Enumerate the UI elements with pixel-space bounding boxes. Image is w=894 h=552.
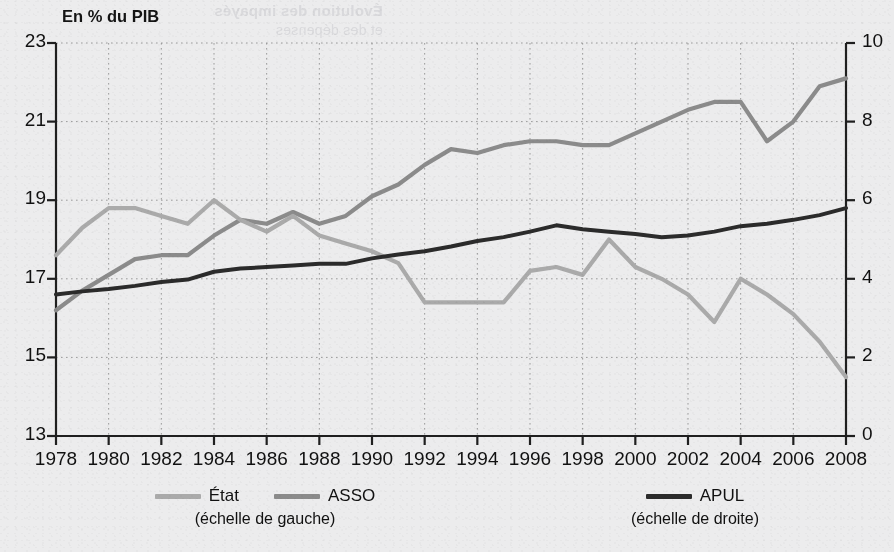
x-axis-tick-label: 2008 [816, 448, 876, 470]
y-axis-left-tick-label: 15 [6, 344, 46, 366]
y-axis-right-tick-label: 2 [862, 344, 894, 366]
y-axis-left-tick-label: 13 [6, 423, 46, 445]
x-axis-tick-label: 2000 [605, 448, 665, 470]
x-axis-tick-label: 1978 [26, 448, 86, 470]
x-axis-tick-label: 2004 [711, 448, 771, 470]
x-axis-tick-label: 1998 [553, 448, 613, 470]
legend-scale-right: (échelle de droite) [530, 510, 860, 528]
x-axis-tick-label: 1980 [79, 448, 139, 470]
legend-group-right: APUL (échelle de droite) [530, 486, 860, 528]
x-axis-tick-label: 1990 [342, 448, 402, 470]
x-axis-tick-label: 2006 [763, 448, 823, 470]
y-axis-right-tick-label: 0 [862, 423, 894, 445]
x-axis-tick-label: 1992 [395, 448, 455, 470]
y-axis-right-tick-label: 8 [862, 109, 894, 131]
legend-swatch-etat [155, 494, 201, 499]
y-axis-left-tick-label: 19 [6, 187, 46, 209]
legend-label-etat: État [209, 486, 239, 506]
series-line-tat [56, 200, 846, 377]
legend-label-asso: ASSO [328, 486, 375, 506]
x-axis-tick-label: 2002 [658, 448, 718, 470]
x-axis-tick-label: 1994 [447, 448, 507, 470]
y-axis-left-tick-label: 23 [6, 30, 46, 52]
legend-item-apul: APUL [646, 486, 744, 506]
legend-swatch-apul [646, 494, 692, 499]
legend-item-asso: ASSO [274, 486, 375, 506]
y-axis-right-tick-label: 6 [862, 187, 894, 209]
x-axis-tick-label: 1984 [184, 448, 244, 470]
x-axis-tick-label: 1996 [500, 448, 560, 470]
x-axis-tick-label: 1986 [237, 448, 297, 470]
y-axis-left-tick-label: 21 [6, 109, 46, 131]
y-axis-left-tick-label: 17 [6, 266, 46, 288]
x-axis-tick-label: 1982 [131, 448, 191, 470]
x-axis-tick-label: 1988 [289, 448, 349, 470]
legend-group-left: État ASSO (échelle de gauche) [100, 486, 430, 528]
legend-label-apul: APUL [700, 486, 744, 506]
data-series-layer [56, 78, 846, 377]
series-line-asso [56, 78, 846, 310]
y-axis-right-tick-label: 4 [862, 266, 894, 288]
y-axis-right-tick-label: 10 [862, 30, 894, 52]
chart-legend: État ASSO (échelle de gauche) APUL (éche… [0, 484, 894, 552]
legend-swatch-asso [274, 494, 320, 499]
legend-scale-left: (échelle de gauche) [100, 510, 430, 528]
legend-item-etat: État [155, 486, 239, 506]
